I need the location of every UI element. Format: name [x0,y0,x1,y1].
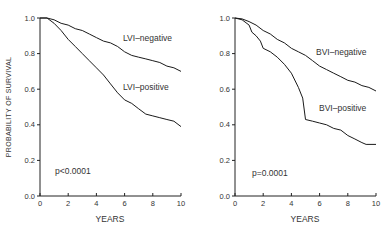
x-tick-label: 2 [66,199,70,208]
y-tick-label: 0.0 [220,192,230,201]
bvi-positive-label: BVI–positive [319,103,367,113]
x-tick-label: 4 [289,199,293,208]
y-tick-label: 0.0 [25,192,35,201]
x-tick-label: 2 [261,199,265,208]
lvi-positive-label: LVI–positive [123,82,169,92]
x-axis-label: YEARS [96,214,125,224]
y-tick-label: 0.6 [220,85,230,94]
lvi-survival-chart: PROBABILITY OF SURVIVAL 0.00.20.40.60.81… [5,14,185,225]
y-ticks: 0.00.20.40.60.81.0 [220,14,235,201]
bvi-negative-label: BVI–negative [316,47,367,57]
lvi-negative-curve [40,18,181,71]
x-ticks: 0246810 [38,193,185,208]
y-ticks: 0.00.20.40.60.81.0 [25,14,40,201]
y-tick-label: 1.0 [220,14,230,23]
x-tick-label: 6 [123,199,127,208]
x-tick-label: 10 [177,199,185,208]
x-tick-label: 0 [233,199,237,208]
x-tick-label: 4 [94,199,98,208]
survival-figure: PROBABILITY OF SURVIVAL 0.00.20.40.60.81… [0,0,390,228]
x-tick-label: 8 [151,199,155,208]
x-tick-label: 0 [38,199,42,208]
bvi-survival-chart: 0.00.20.40.60.81.0 0246810 BVI–negative … [220,14,381,225]
lvi-negative-label: LVI–negative [123,33,172,43]
x-tick-label: 6 [318,199,322,208]
y-tick-label: 0.8 [25,49,35,58]
x-ticks: 0246810 [233,193,380,208]
x-tick-label: 10 [372,199,380,208]
x-axis-label: YEARS [291,214,320,224]
y-tick-label: 0.6 [25,85,35,94]
y-tick-label: 0.4 [220,120,230,129]
y-tick-label: 0.2 [220,156,230,165]
y-tick-label: 1.0 [25,14,35,23]
p-value: p=0.0001 [252,168,288,178]
p-value: p<0.0001 [55,166,91,176]
y-axis-label: PROBABILITY OF SURVIVAL [5,57,12,157]
y-tick-label: 0.2 [25,156,35,165]
bvi-positive-curve [235,18,376,144]
y-tick-label: 0.8 [220,49,230,58]
y-tick-label: 0.4 [25,120,35,129]
x-tick-label: 8 [346,199,350,208]
